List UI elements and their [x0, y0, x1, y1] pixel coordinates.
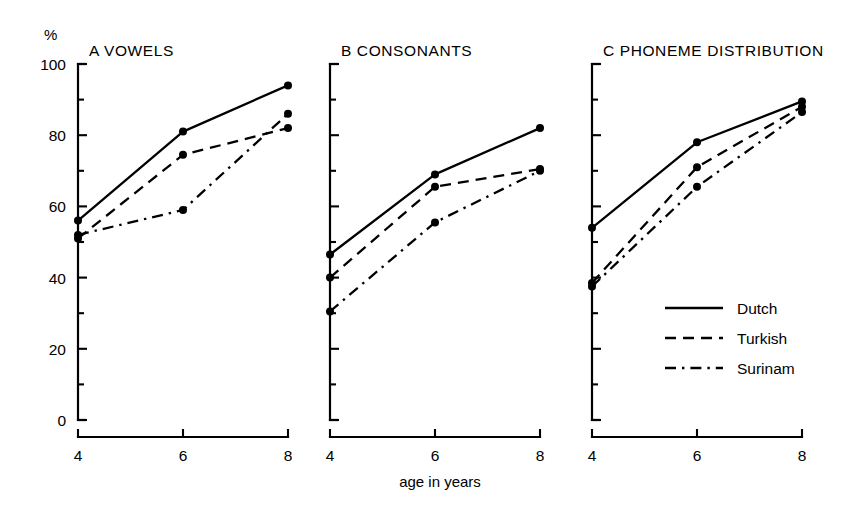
figure-root: 468A VOWELS468B CONSONANTS468C PHONEME D… — [0, 0, 844, 505]
x-tick-label: 6 — [431, 447, 440, 464]
panel-c — [588, 64, 806, 437]
y-tick-label: 60 — [49, 198, 67, 215]
y-axis-unit-label: % — [44, 26, 57, 43]
panel-title-c: C PHONEME DISTRIBUTION — [603, 42, 824, 59]
x-tick-label: 8 — [536, 447, 545, 464]
series-line-surinam — [592, 112, 802, 286]
x-tick-label: 8 — [284, 447, 293, 464]
y-tick-label: 20 — [49, 341, 67, 358]
series-line-surinam — [330, 171, 540, 312]
x-axis-title: age in years — [399, 473, 481, 490]
y-tick-label: 0 — [57, 412, 66, 429]
panel-b — [326, 64, 544, 437]
data-point-surinam — [431, 218, 439, 226]
data-point-surinam — [536, 167, 544, 175]
data-point-surinam — [284, 110, 292, 118]
data-point-surinam — [179, 206, 187, 214]
x-tick-label: 4 — [588, 447, 597, 464]
series-line-turkish — [78, 128, 288, 238]
x-tick-label: 6 — [693, 447, 702, 464]
x-tick-label: 8 — [798, 447, 807, 464]
data-point-surinam — [798, 108, 806, 116]
data-point-surinam — [588, 283, 596, 291]
data-point-dutch — [326, 251, 334, 259]
y-tick-label: 80 — [49, 127, 67, 144]
data-point-surinam — [693, 183, 701, 191]
legend-label-surinam: Surinam — [737, 360, 795, 377]
data-point-surinam — [74, 231, 82, 239]
legend: DutchTurkishSurinam — [665, 300, 795, 377]
x-tick-label: 6 — [179, 447, 188, 464]
chart-canvas: 468A VOWELS468B CONSONANTS468C PHONEME D… — [0, 0, 844, 505]
data-point-turkish — [693, 163, 701, 171]
x-tick-label: 4 — [74, 447, 83, 464]
data-point-dutch — [431, 170, 439, 178]
data-point-dutch — [693, 138, 701, 146]
y-tick-label: 40 — [49, 270, 67, 287]
panel-title-a: A VOWELS — [89, 42, 174, 59]
data-point-dutch — [588, 224, 596, 232]
panel-title-b: B CONSONANTS — [341, 42, 472, 59]
x-tick-label: 4 — [326, 447, 335, 464]
data-point-dutch — [536, 124, 544, 132]
data-point-dutch — [284, 81, 292, 89]
data-point-turkish — [179, 151, 187, 159]
data-point-turkish — [284, 124, 292, 132]
y-tick-label: 100 — [40, 56, 66, 73]
legend-label-dutch: Dutch — [737, 300, 778, 317]
data-point-turkish — [326, 274, 334, 282]
data-point-turkish — [431, 183, 439, 191]
data-point-surinam — [326, 307, 334, 315]
data-point-dutch — [74, 217, 82, 225]
series-line-dutch — [330, 128, 540, 254]
legend-label-turkish: Turkish — [737, 330, 787, 347]
panel-a — [74, 64, 292, 437]
data-point-dutch — [179, 128, 187, 136]
